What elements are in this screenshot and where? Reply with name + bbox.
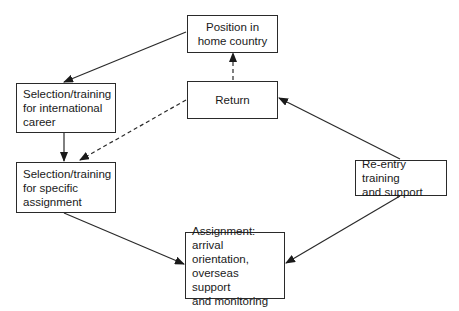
node-assignment: Assignment: arrival orientation, oversea… xyxy=(185,232,285,299)
node-label-line: and monitoring xyxy=(192,294,278,308)
node-label-line: arrival orientation, xyxy=(192,238,278,266)
node-label-line: Return xyxy=(215,93,250,107)
node-label-line: for specific xyxy=(23,181,111,195)
node-label-line: and support xyxy=(362,185,440,199)
node-label-line: for international xyxy=(23,101,111,115)
node-label-line: Selection/training xyxy=(23,167,111,181)
arrow-specific-to-assignment xyxy=(64,213,184,264)
node-label-line: assignment xyxy=(23,195,111,209)
node-label-line: Position in xyxy=(198,20,268,34)
node-return: Return xyxy=(187,81,278,119)
node-selection-international-career: Selection/training for international car… xyxy=(16,83,116,133)
node-selection-specific-assignment: Selection/training for specific assignme… xyxy=(16,162,116,213)
node-label-line: overseas support xyxy=(192,266,278,294)
node-label-line: Selection/training xyxy=(23,87,111,101)
node-label-line: home country xyxy=(198,34,268,48)
arrow-reentry-to-assignment xyxy=(286,196,400,263)
arrow-reentry-to-return xyxy=(279,98,400,159)
arrow-position-to-intl xyxy=(64,32,186,82)
node-label-line: Assignment: xyxy=(192,224,278,238)
node-position-in-home-country: Position in home country xyxy=(187,15,278,53)
node-label-line: career xyxy=(23,115,111,129)
node-re-entry-training: Re-entry training and support xyxy=(355,160,447,196)
node-label-line: Re-entry training xyxy=(362,157,440,185)
